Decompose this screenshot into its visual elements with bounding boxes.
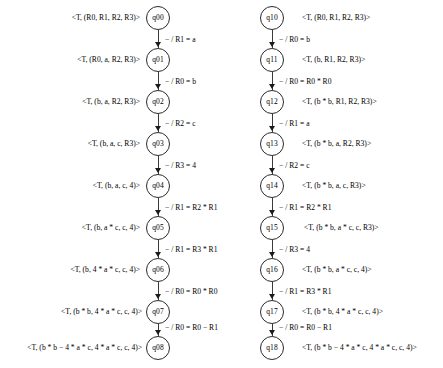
state-node-label: q17 <box>266 308 278 316</box>
state-chain-right: q10 q11 q12 q13 q14 q15 q16 q17 q18 <T, … <box>222 0 443 368</box>
transition-label-q05-q06: − / R1 = R3 * R1 <box>165 246 217 254</box>
state-node-label: q07 <box>152 308 164 316</box>
state-label-q10: <T, (R0, R1, R2, R3)> <box>302 14 370 22</box>
state-node-label: q18 <box>266 344 278 352</box>
transition-label-q14-q15: − / R1 = R2 * R1 <box>279 204 331 212</box>
state-chain-left: q00 q01 q02 q03 q04 q05 q06 q07 q08 <T, … <box>0 0 222 368</box>
state-node-label: q05 <box>152 224 164 232</box>
arrowhead-q02-q03 <box>155 126 161 131</box>
transition-label-q03-q04: − / R3 = 4 <box>165 162 196 170</box>
arrowhead-q11-q12 <box>269 84 275 89</box>
transition-label-q06-q07: − / R0 = R0 * R0 <box>165 288 217 296</box>
arrowhead-q03-q04 <box>155 168 161 173</box>
state-label-q01: <T, (R0, a, R2, R3)> <box>77 56 140 64</box>
transition-label-q04-q05: − / R1 = R2 * R1 <box>165 204 217 212</box>
state-node-q15[interactable]: q15 <box>260 216 284 240</box>
transition-label-q10-q11: − / R0 = b <box>279 36 310 44</box>
arrowhead-q13-q14 <box>269 168 275 173</box>
state-node-q00[interactable]: q00 <box>146 6 170 30</box>
state-node-label: q11 <box>266 56 277 64</box>
state-node-label: q12 <box>266 98 278 106</box>
state-label-q11: <T, (b, R1, R2, R3)> <box>302 56 365 64</box>
state-label-q03: <T, (b, a, c, R3)> <box>88 140 140 148</box>
state-label-q00: <T, (R0, R1, R2, R3)> <box>72 14 140 22</box>
state-node-q03[interactable]: q03 <box>146 132 170 156</box>
transition-label-q02-q03: − / R2 = c <box>165 120 196 128</box>
state-node-label: q08 <box>152 344 164 352</box>
state-node-q02[interactable]: q02 <box>146 90 170 114</box>
arrowhead-q15-q16 <box>269 252 275 257</box>
state-node-q05[interactable]: q05 <box>146 216 170 240</box>
state-label-q02: <T, (b, a, R2, R3)> <box>82 98 140 106</box>
arrowhead-q14-q15 <box>269 210 275 215</box>
transition-label-q16-q17: − / R1 = R3 * R1 <box>279 288 331 296</box>
state-node-q07[interactable]: q07 <box>146 300 170 324</box>
state-label-q12: <T, (b * b, R1, R2, R3)> <box>302 98 377 106</box>
state-node-label: q10 <box>266 14 278 22</box>
state-node-label: q15 <box>266 224 278 232</box>
state-node-q11[interactable]: q11 <box>260 48 284 72</box>
state-node-label: q16 <box>266 266 278 274</box>
state-node-q18[interactable]: q18 <box>260 336 284 360</box>
state-node-label: q14 <box>266 182 278 190</box>
state-label-q05: <T, (b, a * c, c, 4)> <box>82 224 140 232</box>
state-node-q04[interactable]: q04 <box>146 174 170 198</box>
arrowhead-q06-q07 <box>155 294 161 299</box>
transition-label-q00-q01: − / R1 = a <box>165 36 196 44</box>
arrowhead-q00-q01 <box>155 42 161 47</box>
transition-label-q01-q02: − / R0 = b <box>165 78 196 86</box>
transition-label-q15-q16: − / R3 = 4 <box>279 246 310 254</box>
state-label-q06: <T, (b, 4 * a * c, c, 4)> <box>70 266 140 274</box>
arrowhead-q16-q17 <box>269 294 275 299</box>
state-node-q08[interactable]: q08 <box>146 336 170 360</box>
state-node-q13[interactable]: q13 <box>260 132 284 156</box>
arrowhead-q10-q11 <box>269 42 275 47</box>
state-node-label: q02 <box>152 98 164 106</box>
transition-label-q11-q12: − / R0 = R0 * R0 <box>279 78 331 86</box>
state-node-label: q13 <box>266 140 278 148</box>
transition-label-q12-q13: − / R1 = a <box>279 120 310 128</box>
state-node-label: q06 <box>152 266 164 274</box>
diagram-canvas: q00 q01 q02 q03 q04 q05 q06 q07 q08 <T, … <box>0 0 443 368</box>
state-node-q01[interactable]: q01 <box>146 48 170 72</box>
state-node-q17[interactable]: q17 <box>260 300 284 324</box>
transition-label-q13-q14: − / R2 = c <box>279 162 310 170</box>
arrowhead-q01-q02 <box>155 84 161 89</box>
arrowhead-q04-q05 <box>155 210 161 215</box>
state-label-q14: <T, (b * b, a, c, R3)> <box>302 182 366 190</box>
state-label-q04: <T, (b, a, c, 4)> <box>93 182 140 190</box>
state-label-q08: <T, (b * b − 4 * a * c, 4 * a * c, c, 4)… <box>27 344 142 352</box>
state-node-q12[interactable]: q12 <box>260 90 284 114</box>
arrowhead-q05-q06 <box>155 252 161 257</box>
state-node-label: q00 <box>152 14 164 22</box>
state-node-q06[interactable]: q06 <box>146 258 170 282</box>
state-label-q16: <T, (b * b, a * c, c, 4)> <box>302 266 372 274</box>
state-label-q15: <T, (b * b, a * c, c, R3)> <box>304 224 379 232</box>
state-node-q14[interactable]: q14 <box>260 174 284 198</box>
state-label-q13: <T, (b * b, a, R2, R3)> <box>302 140 371 148</box>
state-label-q17: <T, (b * b, 4 * a * c, c, 4)> <box>302 308 383 316</box>
state-node-q10[interactable]: q10 <box>260 6 284 30</box>
state-label-q18: <T, (b * b − 4 * a * c, 4 * a * c, c, 4)… <box>302 344 417 352</box>
state-node-q16[interactable]: q16 <box>260 258 284 282</box>
arrowhead-q07-q08 <box>155 330 161 335</box>
state-node-label: q04 <box>152 182 164 190</box>
transition-label-q07-q08: − / R0 = R0 − R1 <box>165 324 218 332</box>
arrowhead-q12-q13 <box>269 126 275 131</box>
state-node-label: q03 <box>152 140 164 148</box>
state-node-label: q01 <box>152 56 164 64</box>
transition-label-q17-q18: − / R0 = R0 − R1 <box>279 324 332 332</box>
arrowhead-q17-q18 <box>269 330 275 335</box>
state-label-q07: <T, (b * b, 4 * a * c, c, 4)> <box>61 308 142 316</box>
